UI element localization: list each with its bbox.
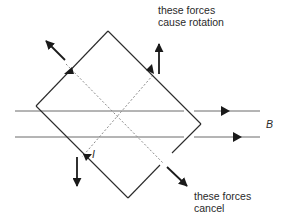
coil-edge-right-lower	[128, 165, 160, 198]
cancel-label-line2: cancel	[194, 202, 224, 214]
rotation-label-line2: cause rotation	[158, 16, 224, 28]
dashed-lines	[66, 64, 163, 163]
magnetic-field-lines	[15, 111, 260, 137]
current-label-i: I	[92, 148, 95, 160]
dashed-diagonal-1	[66, 64, 163, 163]
force-arrow-up-left-icon	[46, 41, 65, 60]
field-arrowhead-1-icon	[221, 106, 230, 116]
rotation-label-line1: these forces	[158, 4, 215, 16]
coil-edge-right-upper	[172, 124, 201, 153]
field-label-b: B	[266, 118, 273, 130]
cancel-label-line1: these forces	[194, 190, 251, 202]
force-arrow-down-right-icon	[167, 167, 187, 186]
current-arrows	[64, 64, 154, 161]
coil-edge-bottom-left	[36, 106, 128, 198]
coil-edge-top-right	[108, 31, 201, 124]
force-arrows	[46, 41, 187, 186]
field-arrowhead-2-icon	[233, 132, 242, 142]
